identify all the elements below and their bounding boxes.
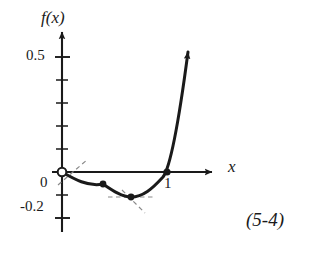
y-axis-label: f(x) xyxy=(41,9,65,26)
y-tick-label-0-5: 0.5 xyxy=(26,48,45,63)
origin-open-point-marker xyxy=(58,168,67,177)
figure-container: f(x) x 0.5 0 -0.2 1 (5-4) xyxy=(0,0,322,254)
x-axis-label: x xyxy=(228,158,236,175)
y-tick-label-neg-0-2: -0.2 xyxy=(20,199,44,214)
minimum-point-marker xyxy=(128,194,135,201)
y-tick-label-0: 0 xyxy=(40,175,48,190)
x-tick-label-1: 1 xyxy=(164,176,172,191)
figure-caption: (5-4) xyxy=(246,210,284,229)
inflection-point-marker xyxy=(100,181,107,188)
